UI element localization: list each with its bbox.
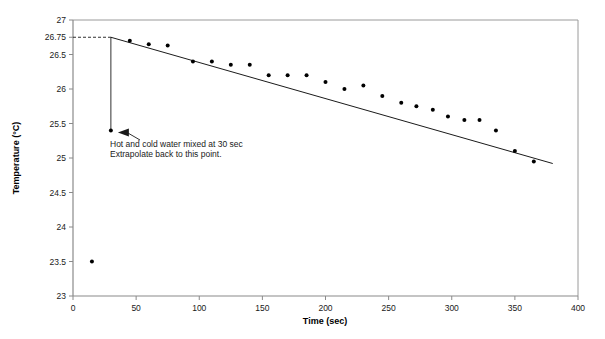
y-tick-label: 23 [57, 291, 67, 301]
data-point [342, 87, 346, 91]
y-tick-label: 25.5 [49, 119, 66, 129]
data-point [494, 128, 498, 132]
data-point [229, 63, 233, 67]
y-axis-title: Temperature (°C) [11, 122, 21, 194]
y-tick-label: 26 [57, 84, 67, 94]
data-point [462, 118, 466, 122]
annotation-line-2: Extrapolate back to this point. [110, 149, 222, 159]
data-point [147, 42, 151, 46]
x-axis-ticks: 050100150200250300350400 [71, 296, 586, 313]
chart-page: 2323.52424.52525.52626.526.7527 05010015… [0, 0, 605, 339]
x-tick-label: 400 [571, 303, 585, 313]
data-point [305, 73, 309, 77]
data-point [324, 80, 328, 84]
data-point [90, 260, 94, 264]
x-tick-label: 50 [131, 303, 141, 313]
data-point [478, 118, 482, 122]
temperature-vs-time-chart: 2323.52424.52525.52626.526.7527 05010015… [0, 0, 605, 339]
y-tick-label: 25 [57, 153, 67, 163]
data-point [513, 149, 517, 153]
x-tick-label: 250 [382, 303, 396, 313]
x-tick-label: 300 [445, 303, 459, 313]
y-axis-ticks: 2323.52424.52525.52626.526.7527 [45, 15, 73, 301]
y-tick-label: 26.5 [49, 50, 66, 60]
x-tick-label: 100 [192, 303, 206, 313]
data-point [361, 84, 365, 88]
data-point [248, 63, 252, 67]
data-point [166, 44, 170, 48]
data-point [414, 104, 418, 108]
y-tick-label: 24 [57, 222, 67, 232]
x-tick-label: 350 [508, 303, 522, 313]
data-point [191, 59, 195, 63]
data-point [286, 73, 290, 77]
y-tick-label: 24.5 [49, 188, 66, 198]
annotation-line-1: Hot and cold water mixed at 30 sec [110, 139, 244, 149]
data-point [446, 115, 450, 119]
y-tick-label: 26.75 [45, 32, 67, 42]
data-point [399, 101, 403, 105]
data-point [431, 108, 435, 112]
data-point [128, 39, 132, 43]
x-tick-label: 200 [318, 303, 332, 313]
data-point [267, 73, 271, 77]
y-tick-label: 23.5 [49, 257, 66, 267]
data-point [380, 94, 384, 98]
data-point [109, 128, 113, 132]
x-axis-title: Time (sec) [303, 316, 347, 326]
x-tick-label: 0 [71, 303, 76, 313]
x-tick-label: 150 [255, 303, 269, 313]
y-tick-label: 27 [57, 15, 67, 25]
data-point [532, 159, 536, 163]
data-point [210, 59, 214, 63]
